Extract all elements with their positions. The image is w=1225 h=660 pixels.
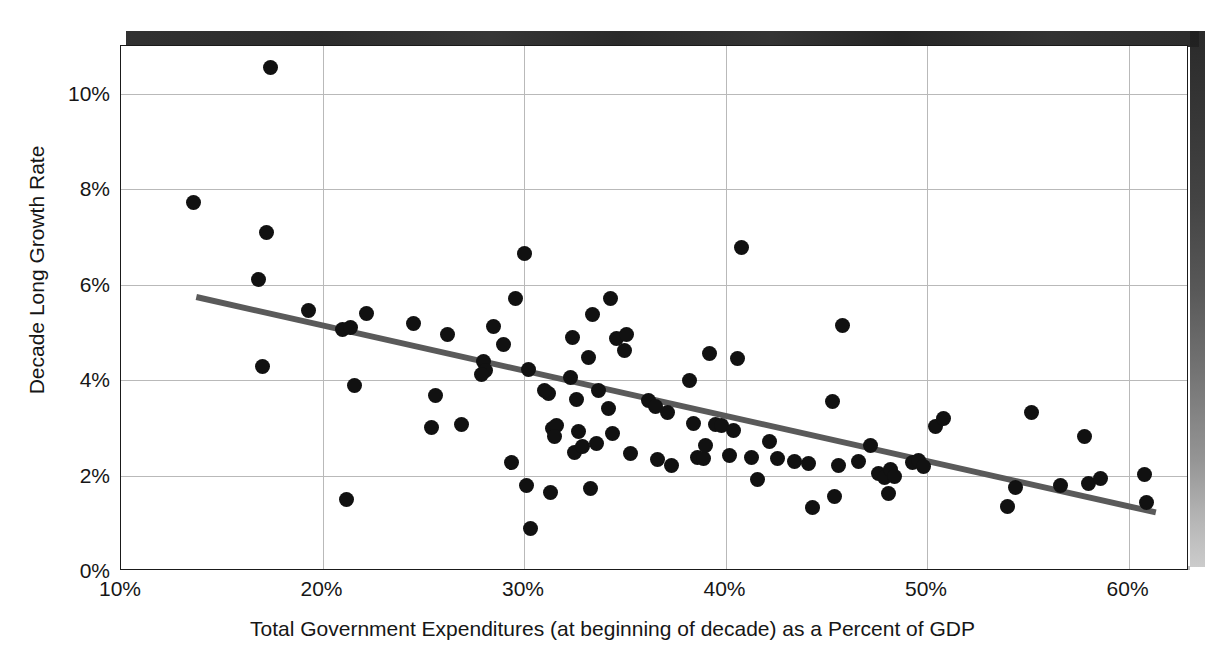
data-point (916, 459, 931, 474)
data-point (730, 351, 745, 366)
data-point (186, 195, 201, 210)
data-point (259, 225, 274, 240)
data-point (424, 420, 439, 435)
trend-line (121, 46, 1187, 569)
data-point (1053, 478, 1068, 493)
data-point (1000, 499, 1015, 514)
data-point (1008, 480, 1023, 495)
data-point (474, 367, 489, 382)
data-point (569, 392, 584, 407)
data-point (936, 411, 951, 426)
data-point (851, 454, 866, 469)
data-point (762, 434, 777, 449)
data-point (263, 60, 278, 75)
data-point (537, 383, 552, 398)
data-point (770, 451, 785, 466)
data-point (563, 370, 578, 385)
gridline-vertical (1129, 46, 1130, 569)
data-point (255, 359, 270, 374)
data-point (881, 486, 896, 501)
x-tick-label: 50% (871, 578, 981, 599)
data-point (605, 426, 620, 441)
data-point (698, 438, 713, 453)
data-point (702, 346, 717, 361)
data-point (660, 405, 675, 420)
x-axis-tick-labels: 10%20%30%40%50%60% (120, 578, 1188, 606)
data-point (1093, 471, 1108, 486)
data-point (887, 469, 902, 484)
data-point (543, 485, 558, 500)
data-point (734, 240, 749, 255)
x-axis-title: Total Government Expenditures (at beginn… (0, 617, 1225, 641)
data-point (601, 401, 616, 416)
data-point (406, 316, 421, 331)
data-point (750, 472, 765, 487)
data-point (619, 327, 634, 342)
x-tick-label: 10% (65, 578, 175, 599)
data-point (696, 451, 711, 466)
data-point (547, 429, 562, 444)
x-tick-label: 60% (1073, 578, 1183, 599)
data-point (664, 458, 679, 473)
data-point (496, 337, 511, 352)
gridline-horizontal (121, 94, 1187, 95)
data-point (686, 416, 701, 431)
data-point (722, 448, 737, 463)
data-point (486, 319, 501, 334)
gridline-horizontal (121, 285, 1187, 286)
y-tick-label: 8% (40, 178, 110, 199)
data-point (1139, 495, 1154, 510)
plot-area (120, 45, 1188, 570)
y-tick-label: 6% (40, 274, 110, 295)
data-point (565, 330, 580, 345)
y-axis-title: Decade Long Growth Rate (25, 20, 49, 520)
data-point (454, 417, 469, 432)
data-point (428, 388, 443, 403)
data-point (343, 320, 358, 335)
data-point (623, 446, 638, 461)
data-point (787, 454, 802, 469)
data-point (591, 383, 606, 398)
data-point (583, 481, 598, 496)
gridline-vertical (927, 46, 928, 569)
y-tick-label: 4% (40, 369, 110, 390)
data-point (805, 500, 820, 515)
gridline-vertical (726, 46, 727, 569)
data-point (863, 438, 878, 453)
data-point (504, 455, 519, 470)
data-point (827, 489, 842, 504)
gridline-horizontal (121, 189, 1187, 190)
data-point (347, 378, 362, 393)
data-point (801, 456, 816, 471)
data-point (744, 450, 759, 465)
data-point (581, 350, 596, 365)
data-point (603, 291, 618, 306)
data-point (440, 327, 455, 342)
gridline-horizontal (121, 380, 1187, 381)
data-point (650, 452, 665, 467)
data-point (682, 373, 697, 388)
data-point (835, 318, 850, 333)
data-point (1137, 467, 1152, 482)
data-point (508, 291, 523, 306)
x-tick-label: 20% (267, 578, 377, 599)
data-point (571, 424, 586, 439)
gridline-vertical (323, 46, 324, 569)
data-point (589, 436, 604, 451)
data-point (585, 307, 600, 322)
data-point (1024, 405, 1039, 420)
y-tick-label: 10% (40, 83, 110, 104)
data-point (831, 458, 846, 473)
data-point (359, 306, 374, 321)
scatter-plot-figure: 0%2%4%6%8%10% 10%20%30%40%50%60% Decade … (0, 0, 1225, 660)
data-point (517, 246, 532, 261)
x-tick-label: 40% (670, 578, 780, 599)
data-point (726, 423, 741, 438)
data-point (301, 303, 316, 318)
data-point (523, 521, 538, 536)
data-point (251, 272, 266, 287)
data-point (521, 362, 536, 377)
data-point (339, 492, 354, 507)
gridline-horizontal (121, 476, 1187, 477)
x-tick-label: 30% (468, 578, 578, 599)
